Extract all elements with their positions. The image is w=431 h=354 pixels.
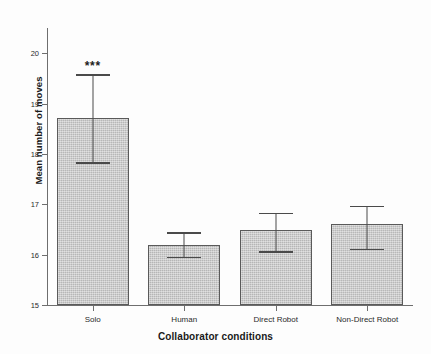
error-bar-cap-lower-3	[350, 249, 384, 251]
y-tick-label-19: 19	[17, 100, 39, 109]
y-tick-18	[42, 154, 47, 155]
bar-chart-figure: Mean number of moves Collaborator condit…	[0, 0, 431, 354]
x-axis-line	[47, 305, 413, 306]
error-bar-cap-lower-2	[259, 251, 293, 253]
error-bar-cap-upper-0	[76, 74, 110, 76]
error-bar-cap-upper-2	[259, 213, 293, 215]
x-tick-1	[184, 306, 185, 311]
x-tick-label-solo: Solo	[85, 315, 101, 324]
error-bar-cap-upper-3	[350, 206, 384, 208]
y-tick-label-20: 20	[17, 49, 39, 58]
x-tick-label-direct-robot: Direct Robot	[254, 315, 298, 324]
y-tick-17	[42, 204, 47, 205]
y-tick-20	[42, 53, 47, 54]
x-tick-label-non-direct-robot: Non-Direct Robot	[336, 315, 398, 324]
error-bar-stem-3	[367, 206, 368, 249]
y-axis-title: Mean number of moves	[33, 41, 44, 221]
error-bar-stem-1	[184, 232, 185, 256]
x-tick-label-human: Human	[171, 315, 197, 324]
x-tick-3	[367, 306, 368, 311]
x-tick-0	[93, 306, 94, 311]
y-tick-19	[42, 104, 47, 105]
x-axis-title: Collaborator conditions	[0, 331, 431, 342]
error-bar-stem-0	[92, 74, 93, 162]
y-tick-label-16: 16	[17, 251, 39, 260]
significance-marker-solo: ***	[85, 60, 101, 72]
y-tick-16	[42, 255, 47, 256]
x-tick-2	[276, 306, 277, 311]
error-bar-stem-2	[275, 213, 276, 251]
error-bar-cap-lower-0	[76, 162, 110, 164]
error-bar-cap-lower-1	[167, 257, 201, 259]
y-tick-label-15: 15	[17, 301, 39, 310]
y-tick-label-18: 18	[17, 150, 39, 159]
y-tick-15	[42, 305, 47, 306]
error-bar-cap-upper-1	[167, 232, 201, 234]
plot-area: 151617181920 SoloHumanDirect RobotNon-Di…	[47, 28, 413, 305]
y-tick-label-17: 17	[17, 200, 39, 209]
y-axis-line	[47, 28, 48, 305]
